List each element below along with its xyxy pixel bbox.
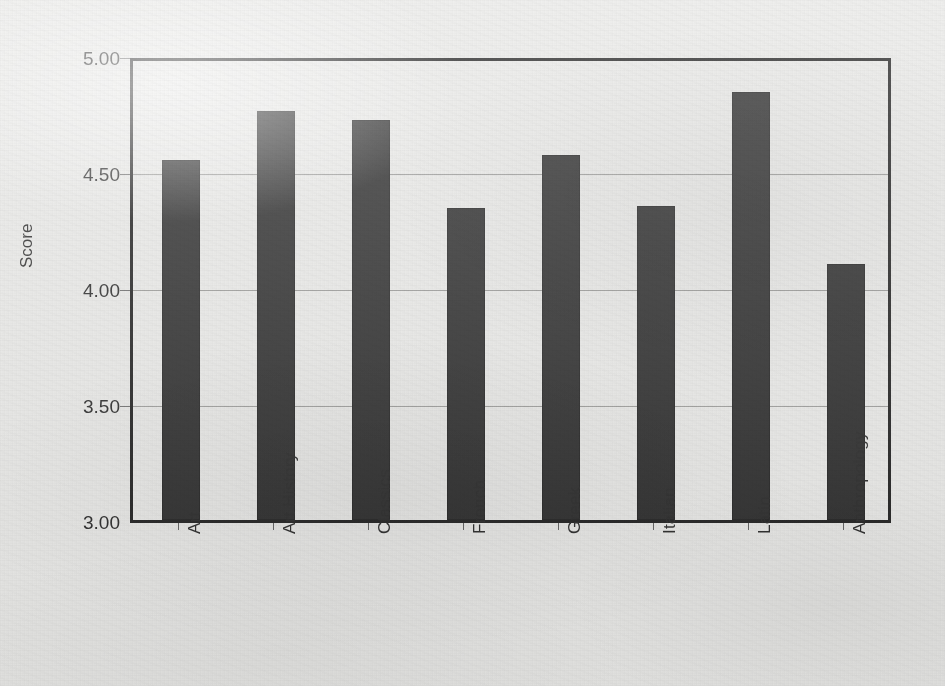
x-axis-label-art: Art [185, 512, 205, 534]
y-tick-label-5-00: 5.00 [62, 48, 120, 70]
y-tick-mark-3-50 [120, 406, 130, 407]
bar-classics[interactable] [352, 120, 390, 520]
x-tick-mark-greek [558, 523, 559, 530]
y-tick-label-4-50: 4.50 [62, 164, 120, 186]
x-tick-mark-latin [748, 523, 749, 530]
x-axis-label-latin: Latin [755, 496, 775, 534]
y-tick-label-3-00: 3.00 [62, 512, 120, 534]
x-tick-mark-art-history [273, 523, 274, 530]
y-tick-label-4-00: 4.00 [62, 280, 120, 302]
bar-chart: Score 5.00 4.50 4.00 3.50 3.00 ArtArt Hi… [0, 0, 945, 686]
x-tick-mark-art [178, 523, 179, 530]
x-axis-label-french: French [470, 480, 490, 534]
y-tick-label-3-50: 3.50 [62, 396, 120, 418]
x-axis-label-art-history: Art History [280, 452, 300, 534]
x-axis-label-anthropology: Anthropology [850, 431, 870, 534]
x-tick-mark-italian [653, 523, 654, 530]
x-axis-label-classics: Classics [375, 469, 395, 534]
x-axis-label-italian: Italian [660, 487, 680, 534]
bar-art[interactable] [162, 160, 200, 520]
bar-italian[interactable] [637, 206, 675, 520]
y-tick-mark-4-50 [120, 174, 130, 175]
y-axis-title: Score [17, 224, 37, 268]
plot-area [130, 58, 891, 523]
bar-french[interactable] [447, 208, 485, 520]
x-axis-label-greek: Greek [565, 487, 585, 534]
bar-series [133, 61, 888, 520]
bar-latin[interactable] [732, 92, 770, 520]
x-tick-mark-classics [368, 523, 369, 530]
y-tick-mark-5-00 [120, 58, 130, 59]
bar-greek[interactable] [542, 155, 580, 520]
x-tick-mark-anthropology [843, 523, 844, 530]
x-tick-mark-french [463, 523, 464, 530]
y-tick-mark-4-00 [120, 290, 130, 291]
